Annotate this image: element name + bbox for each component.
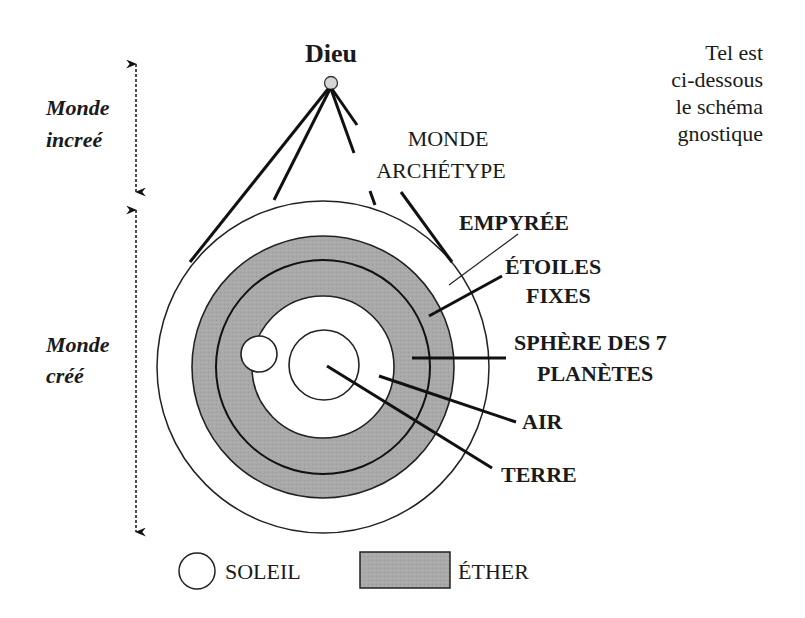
terre-label: TERRE (501, 462, 577, 487)
cosmos-spheres (157, 201, 489, 533)
caption-text: Tel est ci-dessous le schéma gnostique (671, 40, 763, 146)
caption-line-1: Tel est (705, 40, 763, 65)
caption-line-3: le schéma (676, 94, 764, 119)
etoiles-fixes-label: ÉTOILES FIXES (505, 254, 601, 308)
sphere-planetes-line-2: PLANÈTES (537, 361, 653, 386)
empyree-label: EMPYRÉE (459, 210, 569, 235)
sun-icon (241, 336, 277, 372)
ray-right-long (331, 89, 354, 153)
caption-line-4: gnostique (677, 121, 763, 146)
monde-incree-line-2: increé (46, 127, 103, 152)
dieu-label: Dieu (305, 39, 357, 68)
etoiles-fixes-line-2: FIXES (526, 283, 591, 308)
soleil-legend-icon (179, 553, 215, 589)
air-label: AIR (522, 409, 563, 434)
soleil-legend-label: SOLEIL (225, 559, 301, 584)
monde-incree-label: Monde increé (45, 95, 110, 152)
monde-cree-line-2: créé (46, 363, 85, 388)
sphere-planetes-line-1: SPHÈRE DES 7 (514, 330, 667, 355)
sphere-planetes-label: SPHÈRE DES 7 PLANÈTES (514, 330, 667, 386)
monde-cree-label: Monde créé (45, 332, 110, 388)
caption-line-2: ci-dessous (671, 67, 763, 92)
monde-archetype-label: MONDE ARCHÉTYPE (376, 126, 506, 183)
ray-right-short (332, 89, 357, 125)
monde-archetype-line-1: MONDE (408, 126, 489, 151)
gnostic-cosmology-diagram: Dieu Tel est ci-dessous le schéma gnosti… (0, 0, 805, 618)
earth-sphere (289, 330, 359, 400)
etoiles-fixes-line-1: ÉTOILES (505, 254, 601, 279)
ether-legend-icon (360, 552, 450, 588)
monde-cree-line-1: Monde (45, 332, 110, 357)
monde-incree-line-1: Monde (45, 95, 110, 120)
monde-archetype-line-2: ARCHÉTYPE (376, 158, 506, 183)
ray-right-continuation (370, 191, 375, 205)
legend: SOLEIL ÉTHER (179, 552, 529, 589)
dieu-point-icon (325, 77, 338, 90)
ether-legend-label: ÉTHER (458, 559, 529, 584)
